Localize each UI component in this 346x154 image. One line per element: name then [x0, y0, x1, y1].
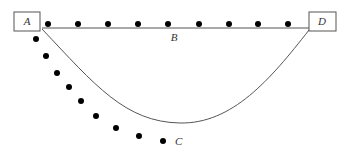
dot-top [135, 21, 141, 27]
dot-top [165, 21, 171, 27]
dots-top-row [45, 21, 291, 27]
dot-top [75, 21, 81, 27]
dot-top [255, 21, 261, 27]
dot-diagonal [160, 138, 166, 144]
dots-diagonal-row [33, 36, 166, 144]
dot-diagonal [33, 36, 39, 42]
node-d-label: D [317, 15, 326, 27]
dot-diagonal [54, 70, 60, 76]
dot-top [285, 21, 291, 27]
dot-diagonal [78, 98, 84, 104]
node-d: D [309, 12, 336, 31]
dot-diagonal [136, 133, 142, 139]
dot-diagonal [43, 53, 49, 59]
dot-top [45, 21, 51, 27]
node-a: A [14, 12, 40, 31]
dot-diagonal [66, 84, 72, 90]
diagram-canvas: A D B C [0, 0, 346, 154]
dot-diagonal [93, 113, 99, 119]
dot-top [226, 21, 232, 27]
curved-edge-A-D [42, 29, 309, 123]
label-c: C [175, 135, 183, 147]
label-b: B [171, 31, 178, 43]
dot-top [105, 21, 111, 27]
node-a-label: A [23, 15, 31, 27]
dot-top [196, 21, 202, 27]
dot-diagonal [113, 125, 119, 131]
